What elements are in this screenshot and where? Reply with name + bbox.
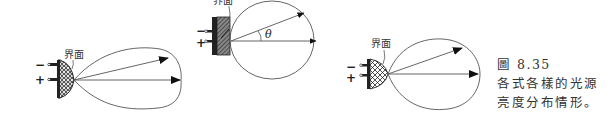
diagram-1-hemispherical-source: − + 界面 bbox=[35, 48, 181, 109]
figure-caption: 圖 8.35 各式各樣的光源 亮度分布情形。 bbox=[497, 55, 599, 112]
caption-line-1: 各式各樣的光源 bbox=[497, 74, 599, 93]
theta-label: θ bbox=[265, 28, 272, 41]
figure-number: 圖 8.35 bbox=[497, 55, 599, 74]
diagram-2-flat-source: − + 界面 θ bbox=[196, 0, 316, 79]
emitter-base bbox=[212, 17, 217, 55]
plus-sign: + bbox=[35, 73, 45, 87]
intensity-lobe bbox=[74, 48, 181, 109]
emitter-base bbox=[57, 60, 60, 98]
interface-leader-line bbox=[383, 50, 385, 64]
interface-leader-line bbox=[72, 60, 73, 69]
interface-leader-line bbox=[229, 6, 230, 22]
interface-label: 界面 bbox=[64, 49, 84, 60]
interface-label: 界面 bbox=[371, 38, 391, 49]
diagram-3-lens-source: − + 界面 bbox=[346, 38, 480, 110]
oblique-arrow bbox=[388, 48, 462, 74]
plus-sign: + bbox=[346, 71, 356, 85]
lens-emitter bbox=[370, 59, 388, 89]
oblique-arrow bbox=[74, 58, 168, 80]
plus-sign: + bbox=[196, 36, 206, 50]
hemispherical-emitter bbox=[58, 60, 74, 98]
interface-label: 界面 bbox=[213, 0, 233, 6]
circular-distribution bbox=[230, 1, 314, 79]
flat-emitter bbox=[217, 17, 230, 55]
caption-line-2: 亮度分布情形。 bbox=[497, 93, 599, 112]
angle-arc bbox=[258, 31, 261, 41]
minus-sign: − bbox=[35, 58, 45, 72]
